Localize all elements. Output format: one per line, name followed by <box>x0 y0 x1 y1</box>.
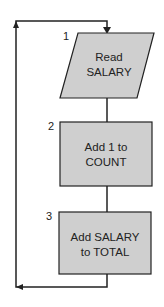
step-3-line-2: to TOTAL <box>59 245 151 260</box>
step-1-line-1: Read <box>77 50 141 65</box>
step-1-label: Read SALARY <box>77 50 141 80</box>
arrowhead-bottom-left <box>16 284 23 290</box>
step-3-number: 3 <box>46 210 52 222</box>
step-1-line-2: SALARY <box>77 65 141 80</box>
step-2-number: 2 <box>48 120 54 132</box>
step-3-line-1: Add SALARY <box>59 230 151 245</box>
step-2-line-1: Add 1 to <box>60 140 152 155</box>
step-3-label: Add SALARY to TOTAL <box>59 230 151 260</box>
step-1-number: 1 <box>63 30 69 42</box>
step-2-label: Add 1 to COUNT <box>60 140 152 170</box>
step-2-line-2: COUNT <box>60 155 152 170</box>
arrowhead-top-left <box>13 21 19 28</box>
